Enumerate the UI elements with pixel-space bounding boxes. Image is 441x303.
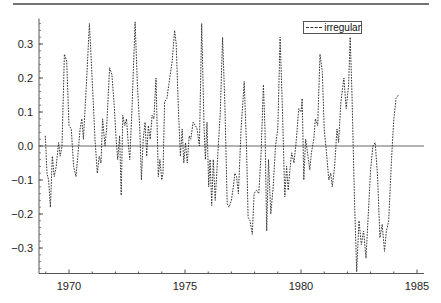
x-tick-label: 1975 (173, 280, 197, 292)
y-tick-label: 0.1 (18, 106, 33, 118)
legend-label: irregular (324, 22, 361, 33)
y-tick-label: −0.3 (11, 242, 33, 254)
x-tick-label: 1985 (405, 280, 429, 292)
y-tick-label: −0.2 (11, 208, 33, 220)
legend: irregular (303, 21, 362, 34)
y-tick-label: −0.1 (11, 174, 33, 186)
x-tick-label: 1970 (57, 280, 81, 292)
chart-canvas: −0.3−0.2−0.10.00.10.20.31970197519801985 (0, 0, 441, 303)
series-irregular (45, 22, 398, 272)
tick-labels: −0.3−0.2−0.10.00.10.20.31970197519801985 (11, 38, 429, 292)
y-tick-label: 0.2 (18, 72, 33, 84)
x-tick-label: 1980 (289, 280, 313, 292)
y-tick-label: 0.0 (18, 140, 33, 152)
y-tick-label: 0.3 (18, 38, 33, 50)
legend-dashed-line-swatch (306, 27, 322, 28)
